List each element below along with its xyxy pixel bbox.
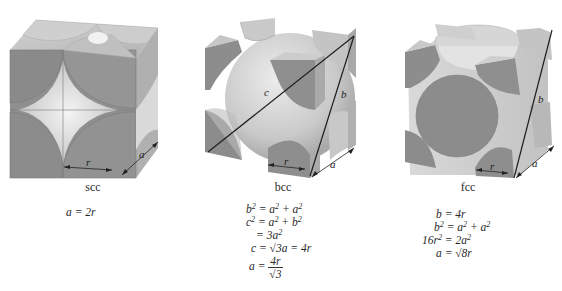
bcc-eq-4: c = √3a = 4r [246, 242, 311, 255]
fcc-panel: b r a fcc b = 4r b2 = a2 + a2 16r2 = 2a2… [380, 0, 562, 200]
fcc-eq-1: b = 4r [422, 208, 490, 221]
bcc-r-label: r [284, 155, 289, 167]
fcc-caption: fcc [418, 180, 518, 195]
scc-panel: r a scc a = 2r [0, 0, 190, 200]
scc-caption: scc [43, 180, 143, 195]
bcc-equations: b2 = a2 + a2 c2 = a2 + b2 = 3a2 c = √3a … [246, 203, 311, 280]
bcc-c-label: c [264, 86, 269, 98]
bcc-caption: bcc [233, 180, 333, 195]
fcc-eq-3: 16r2 = 2a2 [422, 234, 490, 247]
bcc-eq-3: = 3a2 [246, 229, 311, 242]
fcc-equations: b = 4r b2 = a2 + a2 16r2 = 2a2 a = √8r [422, 208, 490, 260]
bcc-unit-cell-drawing: c b r a [190, 0, 380, 200]
scc-eq-1: a = 2r [66, 206, 96, 219]
bcc-eq-5: a = 4r√3 [246, 255, 311, 280]
fcc-r-label: r [490, 160, 495, 172]
fcc-eq-4: a = √8r [422, 247, 490, 260]
bcc-a-label: a [330, 158, 336, 170]
bcc-panel: c b r a bcc b2 = a2 + a2 c2 = a2 + b2 = … [190, 0, 380, 200]
fcc-a-label: a [532, 157, 538, 169]
fcc-b-label: b [538, 93, 544, 105]
scc-unit-cell-drawing: r a [0, 0, 190, 200]
scc-equations: a = 2r [66, 206, 96, 219]
fcc-eq-2: b2 = a2 + a2 [422, 221, 490, 234]
fcc-unit-cell-drawing: b r a [380, 0, 562, 200]
fcc-front-face-atom [416, 75, 498, 157]
scc-a-label: a [139, 148, 145, 160]
bcc-b-label: b [341, 88, 347, 100]
scc-r-label: r [86, 156, 91, 168]
